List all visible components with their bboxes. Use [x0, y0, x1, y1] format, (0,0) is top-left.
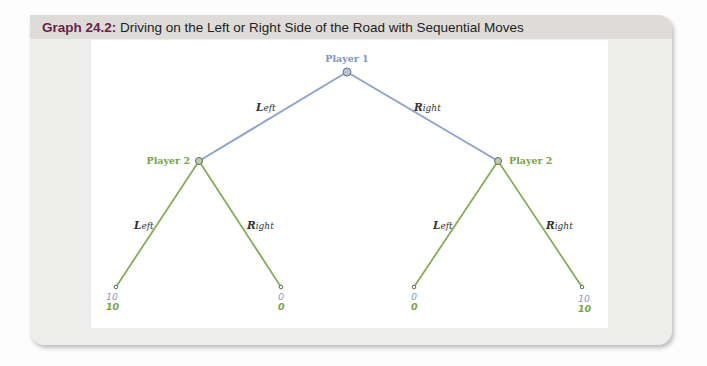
move-p2b-right: Right: [545, 219, 573, 231]
branch-p2a-left: [116, 161, 199, 287]
payoff-3-player2: 0: [411, 301, 418, 312]
leaf-node-2: [279, 285, 283, 289]
node-player2-right: [495, 158, 502, 165]
move-p2b-left: Left: [432, 219, 453, 231]
game-tree: Player 1 Player 2 Player 2 Left Right Le…: [0, 0, 707, 366]
payoff-1-player2: 10: [106, 301, 120, 312]
leaf-node-4: [580, 285, 584, 289]
label-player1: Player 1: [325, 53, 368, 64]
move-p2a-left: Left: [133, 219, 154, 231]
branch-p1-right: [347, 72, 498, 161]
move-p1-left: Left: [255, 101, 276, 113]
node-player1: [343, 68, 351, 76]
move-p1-right: Right: [413, 101, 441, 113]
branch-p2b-left: [414, 161, 498, 287]
leaf-node-1: [114, 285, 118, 289]
move-p2a-right: Right: [246, 219, 274, 231]
label-player2-right: Player 2: [509, 155, 552, 166]
node-player2-left: [196, 158, 203, 165]
branch-p1-left: [199, 72, 347, 161]
leaf-node-3: [412, 285, 416, 289]
payoff-4-player2: 10: [578, 303, 592, 314]
payoff-2-player2: 0: [278, 301, 285, 312]
label-player2-left: Player 2: [147, 155, 190, 166]
